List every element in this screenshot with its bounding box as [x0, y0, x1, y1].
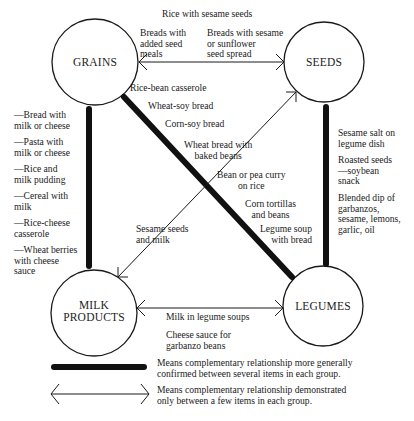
edge-label-cheese-sauce-garbanzo: Cheese sauce for garbanzo beans: [166, 330, 231, 351]
edge-label-sesame-seeds-milk: Sesame seeds and milk: [136, 224, 189, 245]
edge-label-milk-in-legume-soups: Milk in legume soups: [166, 312, 249, 323]
edge-label-roasted-seeds-soybean: Roasted seeds —soybean snack: [338, 155, 392, 187]
edge-label-rice-milk-pudding: —Rice and milk pudding: [14, 164, 65, 185]
edge-label-bean-pea-curry-rice: Bean or pea curry on rice: [217, 170, 285, 191]
edge-label-legume-soup-bread: Legume soup with bread: [260, 224, 312, 245]
legend-thin-arrow-text: Means complementary relationship demonst…: [157, 385, 346, 406]
edge-label-cereal-milk: —Cereal with milk: [14, 191, 68, 212]
legumes-node-label: LEGUMES: [286, 300, 360, 312]
edge-label-corn-soy-bread: Corn-soy bread: [165, 119, 224, 130]
edge-label-sesame-salt-legume: Sesame salt on legume dish: [338, 128, 395, 149]
edge-label-rice-cheese-casserole: —Rice-cheese casserole: [14, 218, 70, 239]
edge-label-rice-with-sesame-seeds: Rice with sesame seeds: [162, 9, 252, 20]
legend-thin-arrow-sample: [51, 384, 149, 404]
edge-label-breads-with-added-seed-meals: Breads with added seed meals: [140, 28, 186, 60]
milk-products-node-label-line2: PRODUCTS: [56, 311, 132, 323]
edge-label-wheat-soy-bread: Wheat-soy bread: [148, 101, 213, 112]
edge-label-pasta-milk-cheese: —Pasta with milk or cheese: [14, 137, 70, 158]
legend-thick-line-text: Means complementary relationship more ge…: [157, 358, 353, 379]
edge-label-bread-milk-cheese: —Bread with milk or cheese: [14, 110, 70, 131]
edge-label-corn-tortillas-beans: Corn tortillas and beans: [245, 199, 296, 220]
edge-label-blended-dip: Blended dip of garbanzos, sesame, lemons…: [338, 193, 401, 235]
edge-label-wheat-berries-cheese-sauce: —Wheat berries with cheese sauce: [14, 245, 77, 277]
seeds-node-label: SEEDS: [290, 56, 358, 68]
edge-label-rice-bean-casserole: Rice-bean casserole: [130, 83, 206, 94]
edge-label-breads-with-sesame-spread: Breads with sesame or sunflower seed spr…: [207, 28, 283, 60]
edge-label-wheat-bread-baked-beans: Wheat bread with baked beans: [184, 140, 252, 161]
milk-products-node-label-line1: MILK: [56, 299, 132, 311]
grains-node-label: GRAINS: [60, 56, 130, 68]
